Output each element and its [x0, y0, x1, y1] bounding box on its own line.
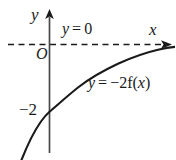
origin-label: O [36, 46, 48, 62]
curve-group [22, 47, 176, 160]
x-axis-label: x [149, 21, 157, 38]
curve-equation: y=−2f(x) [88, 75, 150, 91]
y-axis-group [45, 9, 54, 153]
y-intercept-tick-label: −2 [19, 101, 37, 118]
function-curve [22, 47, 176, 160]
x-axis-group [8, 40, 172, 49]
math-figure-canvas: y x O −2 y=0 y=−2f(x) [0, 0, 175, 160]
curve-equation-close-paren: ) [145, 74, 150, 91]
asymptote-equation: y=0 [62, 21, 92, 37]
curve-equation-relation: = [95, 74, 110, 91]
asymptote-equation-value: 0 [84, 20, 92, 37]
curve-equation-argument: x [138, 74, 145, 91]
curve-equation-coefficient: −2 [110, 74, 127, 91]
asymptote-equation-relation: = [69, 20, 84, 37]
y-axis-label: y [31, 6, 39, 23]
